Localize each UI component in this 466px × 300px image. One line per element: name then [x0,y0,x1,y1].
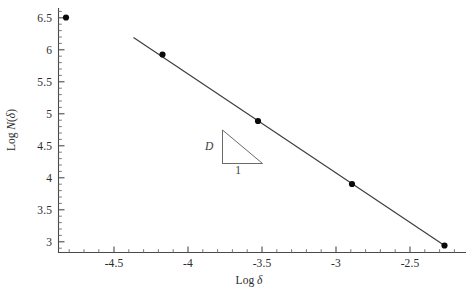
y-tick-label-3-5: 3.5 [10,204,52,216]
x-axis-title: Log δ [236,274,263,286]
y-axis-title-close-paren: ) [5,109,17,113]
y-tick-label-6: 6 [10,44,52,56]
y-axis-title-italic-n: N [5,122,17,130]
slope-triangle [222,130,263,164]
y-tick-label-3: 3 [10,236,52,248]
fit-line [134,38,445,246]
data-point [441,242,447,248]
y-axis-title-symbol: δ [5,113,17,118]
x-tick-label-minus-4: -4 [183,257,193,269]
figure-canvas: 6.5 6 5.5 5 4.5 4 3.5 3 -4.5 -4 -3.5 -3 … [0,0,466,300]
x-tick-label-minus-3-5: -3.5 [253,257,272,269]
y-axis-title: Log N(δ) [5,109,17,151]
y-tick-label-6-5: 6.5 [10,12,52,24]
data-point [349,181,355,187]
x-axis-title-prefix: Log [236,274,257,286]
y-major-ticks [59,18,65,242]
x-tick-label-minus-3: -3 [331,257,341,269]
data-point [63,14,69,20]
y-tick-label-5-5: 5.5 [10,76,52,88]
slope-triangle-run-label: 1 [235,164,241,176]
y-axis-title-open-paren: ( [5,118,17,122]
plot-area [0,0,466,300]
x-axis-title-symbol: δ [257,274,262,286]
x-tick-label-minus-4-5: -4.5 [105,257,124,269]
slope-triangle-rise-label: D [205,140,213,152]
data-points [63,14,448,248]
data-point [255,118,261,124]
y-tick-label-4: 4 [10,172,52,184]
y-axis-title-prefix: Log [5,130,17,151]
data-point [159,51,165,57]
x-tick-label-minus-2-5: -2.5 [401,257,420,269]
